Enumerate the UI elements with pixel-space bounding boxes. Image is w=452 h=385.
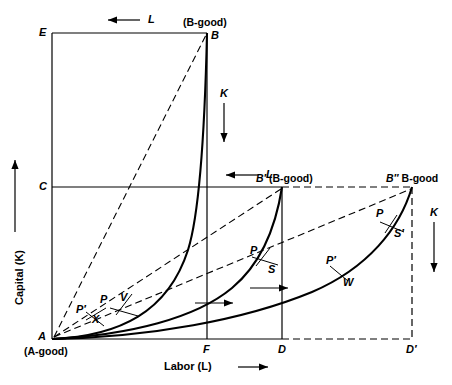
point-label-E: E — [39, 27, 46, 38]
a-good-label: (A-good) — [24, 346, 68, 357]
point-label-X: X — [92, 314, 99, 325]
point-label-P-prime-right: P′ — [326, 255, 336, 266]
point-label-P-mid: P — [250, 245, 257, 256]
arrow-label-K-right: K — [430, 207, 438, 218]
b-double-prime-good-label: B″ B-good — [386, 173, 438, 184]
point-label-F: F — [203, 344, 210, 355]
box3-dashed-edges — [282, 187, 412, 339]
point-label-S-prime: S′ — [394, 228, 404, 239]
y-axis-label: Capital (K) — [14, 250, 25, 305]
point-label-D: D — [278, 344, 286, 355]
ray-A-to-Bprime-dashed — [54, 189, 281, 337]
point-label-D-prime: D′ — [406, 344, 417, 355]
arrow-label-L-top: L — [148, 14, 155, 25]
point-label-A: A — [38, 331, 46, 342]
b-prime-good-text: (B-good) — [269, 172, 313, 184]
diagram-canvas — [0, 0, 452, 385]
b-double-prime-good-text: B-good — [402, 172, 439, 184]
ray-A-to-Bdoubleprime-dashed — [54, 189, 411, 337]
x-axis-label: Labor (L) — [164, 361, 212, 372]
point-label-P-prime-left: P′ — [76, 304, 86, 315]
point-label-C: C — [39, 181, 47, 192]
arrow-label-K-left: K — [220, 88, 228, 99]
ray-A-to-B-dashed — [54, 35, 206, 337]
point-label-B: B — [211, 30, 219, 41]
edgeworth-box-figure: Capital (K) Labor (L) E B C A F D D′ (A-… — [0, 0, 452, 385]
b-good-top-label: (B-good) — [183, 17, 227, 28]
point-label-P-left: P — [100, 294, 107, 305]
arrow-label-L-mid: L — [266, 169, 273, 180]
b-prime-symbol: B′ — [256, 172, 266, 184]
point-label-V: V — [120, 292, 127, 303]
point-label-W: W — [343, 277, 353, 288]
point-label-P-right: P — [376, 208, 383, 219]
point-label-S: S — [268, 264, 275, 275]
b-prime-good-label: B′ (B-good) — [256, 173, 313, 184]
b-double-prime-symbol: B″ — [386, 172, 399, 184]
